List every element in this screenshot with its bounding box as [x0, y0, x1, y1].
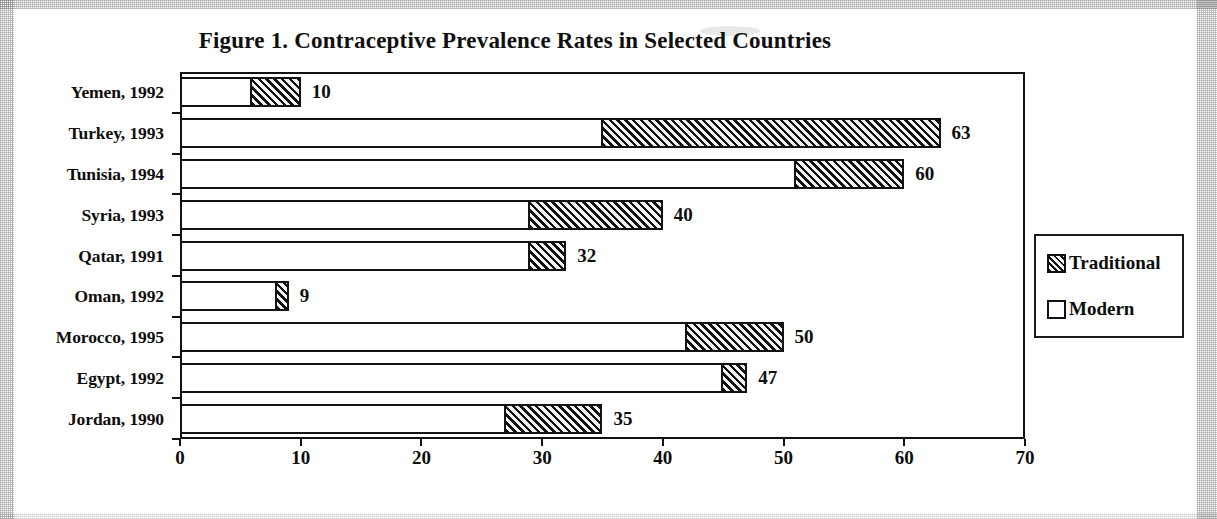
bar-row[interactable]: 35: [180, 404, 1025, 434]
bar-value-label: 40: [674, 204, 693, 226]
scan-edge-top: [0, 0, 1217, 9]
bar-segment-modern[interactable]: [180, 404, 506, 434]
x-axis-tick-label: 50: [774, 447, 793, 469]
bar-segment-traditional[interactable]: [794, 159, 905, 189]
bar-segment-traditional[interactable]: [528, 241, 566, 271]
open-swatch-icon: [1047, 300, 1066, 319]
bar-row[interactable]: 63: [180, 118, 1025, 148]
x-axis-tick: [420, 439, 422, 446]
x-axis-tick-label: 0: [175, 447, 185, 469]
y-axis-tick-label: Yemen, 1992: [71, 82, 164, 103]
bar-segment-traditional[interactable]: [721, 363, 747, 393]
bar-segment-modern[interactable]: [180, 241, 530, 271]
y-axis-tick: [172, 153, 180, 155]
bar-row[interactable]: 40: [180, 200, 1025, 230]
legend-label: Modern: [1069, 298, 1134, 320]
bar-row[interactable]: 50: [180, 322, 1025, 352]
x-axis-tick-label: 60: [895, 447, 914, 469]
bar-segment-modern[interactable]: [180, 200, 530, 230]
x-axis-tick: [1024, 439, 1026, 446]
bar-segment-traditional[interactable]: [685, 322, 784, 352]
bar-value-label: 60: [915, 163, 934, 185]
bar-row[interactable]: 60: [180, 159, 1025, 189]
bar-segment-traditional[interactable]: [275, 281, 289, 311]
legend-label: Traditional: [1069, 252, 1161, 274]
legend-item-modern[interactable]: Modern: [1047, 298, 1134, 320]
bar-segment-traditional[interactable]: [250, 77, 300, 107]
y-axis-tick: [172, 275, 180, 277]
bar-segment-modern[interactable]: [180, 363, 723, 393]
y-axis-tick: [172, 234, 180, 236]
y-axis-tick-label: Jordan, 1990: [68, 408, 164, 429]
y-axis-tick-label: Turkey, 1993: [69, 123, 164, 144]
hatched-swatch-icon: [1047, 254, 1066, 273]
chart-legend: Traditional Modern: [1034, 234, 1184, 338]
x-axis-tick-label: 30: [533, 447, 552, 469]
bar-segment-traditional[interactable]: [601, 118, 941, 148]
bar-segment-modern[interactable]: [180, 77, 252, 107]
bar-segment-modern[interactable]: [180, 159, 796, 189]
x-axis-tick: [662, 439, 664, 446]
x-axis-tick: [300, 439, 302, 446]
bar-value-label: 47: [758, 367, 777, 389]
bar-value-label: 63: [952, 122, 971, 144]
x-axis-tick-label: 70: [1016, 447, 1035, 469]
bar-row[interactable]: 9: [180, 281, 1025, 311]
bar-row[interactable]: 47: [180, 363, 1025, 393]
x-axis-tick-label: 40: [653, 447, 672, 469]
y-axis-labels: Yemen, 1992Turkey, 1993Tunisia, 1994Syri…: [0, 72, 172, 439]
bar-segment-modern[interactable]: [180, 118, 603, 148]
bar-segment-traditional[interactable]: [504, 404, 603, 434]
bar-segment-modern[interactable]: [180, 322, 687, 352]
y-axis-tick: [172, 397, 180, 399]
bar-segment-modern[interactable]: [180, 281, 277, 311]
y-axis-tick-label: Qatar, 1991: [78, 245, 164, 266]
scan-edge-bottom: [0, 513, 1217, 519]
bar-value-label: 10: [312, 81, 331, 103]
bars-layer: 10636040329504735: [180, 72, 1025, 439]
bar-value-label: 50: [795, 326, 814, 348]
x-axis-tick-label: 20: [412, 447, 431, 469]
x-axis-tick: [179, 439, 181, 446]
bar-row[interactable]: 10: [180, 77, 1025, 107]
bar-segment-traditional[interactable]: [528, 200, 663, 230]
legend-item-traditional[interactable]: Traditional: [1047, 252, 1161, 274]
y-axis-tick-label: Egypt, 1992: [77, 367, 164, 388]
y-axis-tick-label: Syria, 1993: [81, 204, 164, 225]
chart-title: Figure 1. Contraceptive Prevalence Rates…: [0, 28, 1030, 54]
y-axis-tick-label: Morocco, 1995: [56, 327, 164, 348]
bar-value-label: 35: [614, 408, 633, 430]
y-axis-tick-label: Tunisia, 1994: [67, 163, 164, 184]
scan-edge-right: [1197, 0, 1217, 519]
y-axis-tick-label: Oman, 1992: [75, 286, 164, 307]
bar-row[interactable]: 32: [180, 241, 1025, 271]
y-axis-tick: [172, 112, 180, 114]
bar-value-label: 32: [577, 245, 596, 267]
x-axis-tick: [541, 439, 543, 446]
x-axis-tick-label: 10: [291, 447, 310, 469]
x-axis-tick: [783, 439, 785, 446]
y-axis-tick: [172, 316, 180, 318]
figure-page: Figure 1. Contraceptive Prevalence Rates…: [0, 0, 1217, 519]
y-axis-tick: [172, 193, 180, 195]
y-axis-tick: [172, 356, 180, 358]
x-axis-tick: [903, 439, 905, 446]
bar-value-label: 9: [300, 285, 310, 307]
